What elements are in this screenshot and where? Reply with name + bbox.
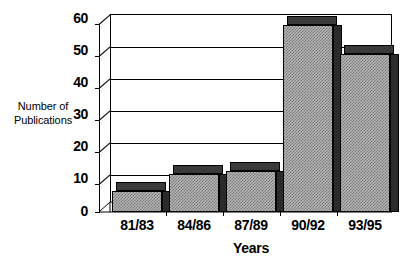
- x-tick-mark-1: [223, 212, 224, 216]
- bar-top-face: [344, 45, 394, 54]
- bar-front-face: [226, 171, 276, 212]
- depth-connector-40: [99, 78, 111, 89]
- bar-top-face: [287, 16, 337, 25]
- bar-93-95: [340, 54, 390, 212]
- x-axis-title: Years: [110, 240, 392, 256]
- x-tick-label-87-89: 87/89: [219, 217, 283, 233]
- bar-front-face: [283, 25, 333, 212]
- depth-connector-20: [99, 142, 111, 153]
- y-tick-label-40: 40: [62, 75, 88, 89]
- x-tick-label-93-95: 93/95: [333, 217, 397, 233]
- bar-front-face: [169, 174, 219, 212]
- y-tick-label-20: 20: [62, 139, 88, 153]
- bar-90-92: [283, 25, 333, 212]
- x-tick-label-81-83: 81/83: [105, 217, 169, 233]
- depth-connector-30: [99, 110, 111, 121]
- y-tick-label-50: 50: [62, 43, 88, 57]
- x-tick-mark-0: [166, 212, 167, 216]
- x-tick-mark-2: [280, 212, 281, 216]
- bar-87-89: [226, 171, 276, 212]
- bar-top-face: [116, 182, 166, 191]
- bar-side-face: [390, 54, 399, 212]
- bar-front-face: [340, 54, 390, 212]
- y-tick-label-10: 10: [62, 171, 88, 185]
- depth-connector-50: [99, 46, 111, 57]
- bar-top-face: [173, 165, 223, 174]
- y-tick-label-60: 60: [62, 11, 88, 25]
- bar-81-83: [112, 191, 162, 212]
- x-tick-mark-3: [337, 212, 338, 216]
- y-tick-mark-0: [95, 212, 100, 213]
- x-tick-label-84-86: 84/86: [162, 217, 226, 233]
- bar-chart: Number of Publications 60 50 40 30 20 10…: [0, 0, 413, 266]
- x-tick-label-90-92: 90/92: [276, 217, 340, 233]
- y-tick-label-30: 30: [62, 107, 88, 121]
- bar-front-face: [112, 191, 162, 212]
- bar-top-face: [230, 162, 280, 171]
- depth-connector-10: [99, 174, 111, 185]
- depth-connector-60: [99, 14, 111, 25]
- y-tick-label-0: 0: [62, 204, 88, 218]
- bar-84-86: [169, 174, 219, 212]
